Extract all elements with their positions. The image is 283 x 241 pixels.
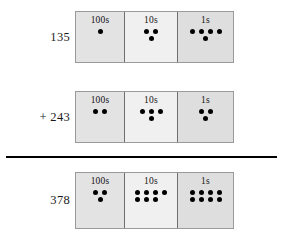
unit-dot bbox=[216, 28, 223, 34]
unit-dot bbox=[207, 189, 214, 195]
unit-dot bbox=[143, 196, 150, 202]
unit-dot bbox=[207, 108, 214, 114]
unit-dot-glyph bbox=[208, 190, 213, 195]
unit-dot bbox=[216, 196, 223, 202]
unit-dot bbox=[152, 189, 159, 195]
dot-group-ones-row2 bbox=[194, 108, 217, 121]
unit-dot bbox=[92, 108, 99, 114]
unit-dot-glyph bbox=[102, 109, 107, 114]
dot-group-hundreds-row3 bbox=[89, 189, 112, 202]
unit-dot-glyph bbox=[203, 36, 208, 41]
unit-dot bbox=[92, 189, 99, 195]
unit-dot-glyph bbox=[217, 29, 222, 34]
unit-dot bbox=[198, 189, 205, 195]
unit-dot-glyph bbox=[98, 197, 103, 202]
unit-dot bbox=[198, 196, 205, 202]
dot-group-ones-row1 bbox=[187, 28, 224, 41]
unit-dot-glyph bbox=[98, 29, 103, 34]
addend-row-1: 135 100s 10s 1s bbox=[0, 11, 283, 63]
unit-dot-glyph bbox=[199, 197, 204, 202]
place-cell-tens-row2: 10s bbox=[125, 92, 178, 142]
dot-spacer bbox=[207, 203, 214, 209]
unit-dot bbox=[198, 108, 205, 114]
place-value-table-3: 100s 10s 1s bbox=[75, 172, 234, 229]
unit-dot bbox=[161, 189, 168, 195]
unit-dot bbox=[148, 35, 155, 41]
unit-dot bbox=[97, 196, 104, 202]
unit-dot-glyph bbox=[149, 109, 154, 114]
unit-dot-glyph bbox=[190, 190, 195, 195]
column-header-ones-row3: 1s bbox=[201, 176, 210, 186]
unit-dot-glyph bbox=[217, 197, 222, 202]
dot-group-ones-row3 bbox=[187, 189, 224, 209]
dot-spacer bbox=[143, 203, 150, 209]
unit-dot bbox=[143, 28, 150, 34]
unit-dot-glyph bbox=[190, 197, 195, 202]
dot-group-hundreds-row2 bbox=[92, 108, 108, 114]
unit-dot-glyph bbox=[135, 190, 140, 195]
dot-group-tens-row1 bbox=[140, 28, 163, 41]
unit-dot-glyph bbox=[93, 109, 98, 114]
unit-dot-glyph bbox=[144, 190, 149, 195]
place-cell-hundreds-row3: 100s bbox=[76, 173, 125, 228]
unit-dot bbox=[97, 28, 104, 34]
unit-dot-glyph bbox=[217, 190, 222, 195]
unit-dot-glyph bbox=[135, 197, 140, 202]
dot-group-tens-row3 bbox=[133, 189, 170, 209]
unit-dot bbox=[101, 108, 108, 114]
unit-dot-glyph bbox=[199, 190, 204, 195]
row-label-addend-2: + 243 bbox=[0, 111, 75, 124]
column-header-tens-row2: 10s bbox=[144, 95, 158, 105]
place-cell-ones-row3: 1s bbox=[178, 173, 233, 228]
unit-dot-glyph bbox=[208, 109, 213, 114]
unit-dot-glyph bbox=[153, 197, 158, 202]
unit-dot bbox=[152, 28, 159, 34]
place-cell-tens-row3: 10s bbox=[125, 173, 178, 228]
addend-row-2: + 243 100s 10s 1s bbox=[0, 91, 283, 143]
unit-dot-glyph bbox=[190, 29, 195, 34]
unit-dot bbox=[148, 108, 155, 114]
unit-dot bbox=[134, 189, 141, 195]
unit-dot-glyph bbox=[102, 190, 107, 195]
place-cell-ones-row1: 1s bbox=[178, 12, 233, 62]
unit-dot bbox=[207, 28, 214, 34]
sum-divider-line bbox=[6, 156, 277, 158]
unit-dot bbox=[139, 108, 146, 114]
unit-dot-glyph bbox=[140, 109, 145, 114]
place-value-addition-worksheet: 135 100s 10s 1s + 243 100s 10s bbox=[0, 0, 283, 241]
dot-spacer bbox=[198, 203, 205, 209]
column-header-ones-row1: 1s bbox=[201, 15, 210, 25]
place-cell-tens-row1: 10s bbox=[125, 12, 178, 62]
column-header-tens-row3: 10s bbox=[144, 176, 158, 186]
column-header-ones-row2: 1s bbox=[201, 95, 210, 105]
column-header-tens-row1: 10s bbox=[144, 15, 158, 25]
unit-dot-glyph bbox=[199, 109, 204, 114]
dot-spacer bbox=[152, 203, 159, 209]
unit-dot bbox=[148, 115, 155, 121]
unit-dot bbox=[216, 189, 223, 195]
unit-dot-glyph bbox=[158, 109, 163, 114]
place-cell-hundreds-row2: 100s bbox=[76, 92, 125, 142]
unit-dot-glyph bbox=[93, 190, 98, 195]
row-label-addend-1: 135 bbox=[0, 31, 75, 44]
column-header-hundreds-row3: 100s bbox=[91, 176, 110, 186]
unit-dot-glyph bbox=[208, 29, 213, 34]
unit-dot-glyph bbox=[153, 29, 158, 34]
unit-dot bbox=[157, 108, 164, 114]
unit-dot-glyph bbox=[149, 36, 154, 41]
unit-dot-glyph bbox=[208, 197, 213, 202]
unit-dot bbox=[202, 115, 209, 121]
dot-group-hundreds-row1 bbox=[96, 28, 105, 34]
unit-dot bbox=[152, 196, 159, 202]
unit-dot-glyph bbox=[199, 29, 204, 34]
unit-dot-glyph bbox=[162, 190, 167, 195]
place-cell-hundreds-row1: 100s bbox=[76, 12, 125, 62]
place-value-table-1: 100s 10s 1s bbox=[75, 11, 234, 63]
place-cell-ones-row2: 1s bbox=[178, 92, 233, 142]
column-header-hundreds-row1: 100s bbox=[91, 15, 110, 25]
dot-spacer bbox=[161, 196, 168, 202]
unit-dot bbox=[198, 28, 205, 34]
unit-dot bbox=[207, 196, 214, 202]
unit-dot-glyph bbox=[153, 190, 158, 195]
unit-dot bbox=[101, 189, 108, 195]
